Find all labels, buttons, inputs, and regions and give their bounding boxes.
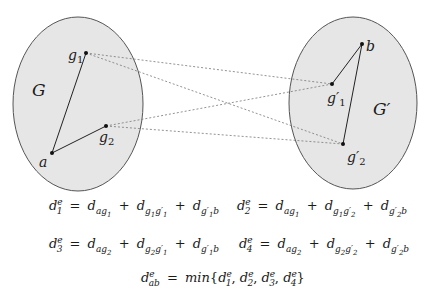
label-b: b: [366, 38, 375, 54]
equation-d4: de4 = dag2 + dg2g′2 + dg′2b: [239, 236, 409, 252]
graph-diagram: G G′ g1 g2 a b g′1 g′2: [0, 0, 432, 304]
equation-d1: de1 = dag1 + dg1g′1 + dg′1b: [49, 198, 219, 214]
node-g2p: [341, 142, 345, 146]
node-g1p: [330, 82, 334, 86]
node-b: [360, 42, 364, 46]
node-g2: [104, 124, 108, 128]
node-g1: [84, 51, 88, 55]
label-G: G: [32, 80, 46, 100]
graph-G-region: [13, 17, 143, 191]
label-a: a: [39, 154, 47, 170]
equation-d2: de2 = dag1 + dg1g′2 + dg′2b: [237, 198, 407, 214]
equation-d3: de13 = dag2 + dg2g′1 + dg′1b: [49, 236, 219, 252]
node-a: [50, 151, 54, 155]
equation-dab-min: deab = min{de1, de2, de3, de4}: [141, 270, 305, 285]
label-Gp: G′: [373, 99, 391, 119]
